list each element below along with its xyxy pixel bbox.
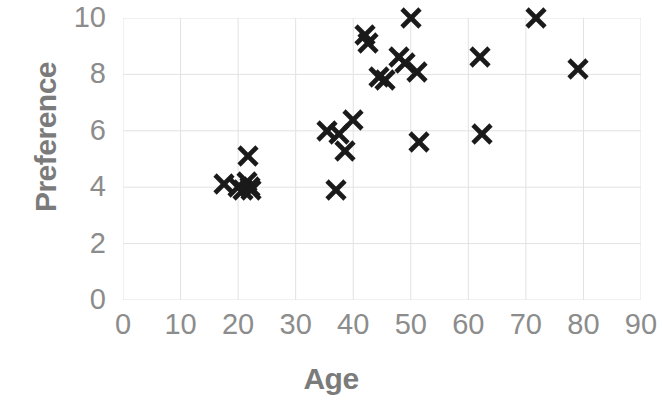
x-tick-label: 40 [323, 310, 383, 339]
y-tick-label: 8 [50, 59, 106, 88]
data-point-marker [332, 138, 358, 164]
data-point-marker [404, 59, 430, 85]
data-point-marker [406, 129, 432, 155]
data-point-marker [398, 5, 424, 31]
x-tick-label: 80 [553, 310, 613, 339]
data-point-marker [467, 44, 493, 70]
x-tick-label: 30 [266, 310, 326, 339]
data-point-marker [323, 177, 349, 203]
data-point-marker [238, 177, 264, 203]
x-tick-label: 10 [151, 310, 211, 339]
x-tick-label: 70 [496, 310, 556, 339]
x-tick-label: 90 [611, 310, 662, 339]
x-tick-label: 50 [381, 310, 441, 339]
y-tick-label: 6 [50, 116, 106, 145]
scatter-chart: Preference 0246810 0102030405060708090 A… [0, 0, 662, 412]
plot-area [123, 18, 641, 300]
data-point-marker [523, 5, 549, 31]
y-tick-label: 10 [50, 3, 106, 32]
data-point-marker [235, 143, 261, 169]
data-point-marker [340, 107, 366, 133]
x-tick-label: 20 [208, 310, 268, 339]
data-point-marker [469, 121, 495, 147]
data-points-layer [123, 18, 641, 300]
x-axis-title: Age [0, 362, 662, 396]
data-point-marker [565, 56, 591, 82]
x-tick-label: 60 [438, 310, 498, 339]
data-point-marker [355, 30, 381, 56]
x-tick-label: 0 [93, 310, 153, 339]
y-tick-label: 4 [50, 172, 106, 201]
y-tick-label: 2 [50, 229, 106, 258]
